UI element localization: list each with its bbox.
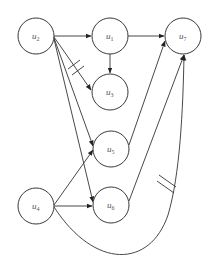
double-bar-mark-u2-u3	[68, 60, 84, 75]
directed-graph-diagram: u2 u1 u7 u3 u5 u6 u4	[0, 0, 217, 270]
node-u2: u2	[18, 18, 54, 54]
double-bar-mark-u4-u7	[157, 175, 176, 193]
edge-u5-u7	[129, 41, 165, 145]
node-u7: u7	[165, 18, 201, 54]
edge-u2-u5	[54, 38, 93, 146]
node-u1: u1	[92, 18, 128, 54]
node-u6: u6	[93, 187, 129, 223]
node-u3: u3	[92, 74, 128, 110]
node-u4: u4	[18, 188, 54, 224]
node-u5: u5	[93, 131, 129, 167]
